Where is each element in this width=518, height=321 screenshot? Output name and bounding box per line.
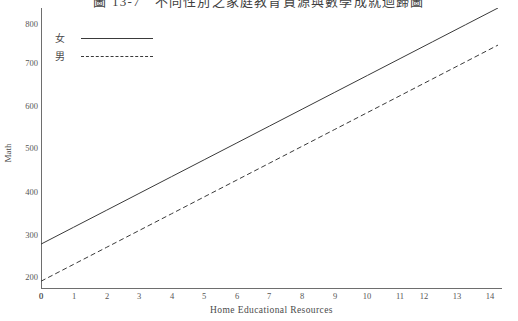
legend-label-female: 女 (55, 30, 65, 45)
x-tick-10: 10 (355, 291, 379, 301)
legend-item-female: 女 (55, 30, 175, 48)
x-axis-title: Home Educational Resources (41, 305, 502, 315)
x-tick-2: 2 (95, 291, 119, 301)
y-axis-tick-labels: 800 700 600 500 400 300 200 (0, 0, 38, 321)
x-tick-12: 12 (412, 291, 436, 301)
x-tick-6: 6 (225, 291, 249, 301)
legend-label-male: 男 (55, 48, 65, 63)
legend: 女 男 (55, 30, 175, 66)
regression-line-chart: 圖 13-7 不同性別之家庭教育資源與數學成就迴歸圖 Math 800 700 … (0, 0, 518, 321)
x-tick-5: 5 (192, 291, 216, 301)
y-tick-300: 300 (0, 230, 38, 240)
legend-swatch-dashed-line (81, 56, 153, 57)
x-tick-9: 9 (323, 291, 347, 301)
y-tick-800: 800 (0, 19, 38, 29)
x-tick-4: 4 (160, 291, 184, 301)
x-tick-0: 0 (29, 291, 53, 301)
y-tick-400: 400 (0, 187, 38, 197)
legend-item-male: 男 (55, 48, 175, 66)
x-tick-13: 13 (445, 291, 469, 301)
x-tick-14: 14 (478, 291, 502, 301)
series-line-male (41, 45, 498, 281)
y-tick-700: 700 (0, 58, 38, 68)
legend-swatch-solid-line (81, 38, 153, 39)
x-tick-8: 8 (290, 291, 314, 301)
y-tick-600: 600 (0, 101, 38, 111)
x-tick-11: 11 (388, 291, 412, 301)
x-tick-3: 3 (127, 291, 151, 301)
x-tick-1: 1 (62, 291, 86, 301)
y-tick-200: 200 (0, 272, 38, 282)
x-tick-7: 7 (257, 291, 281, 301)
x-axis-line (41, 288, 502, 289)
y-tick-500: 500 (0, 143, 38, 153)
